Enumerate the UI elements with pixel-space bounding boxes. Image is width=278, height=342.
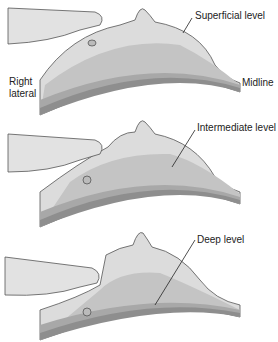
label-intermediate: Intermediate level <box>197 122 276 133</box>
hand <box>5 257 99 295</box>
lump <box>83 176 91 184</box>
panel-deep: Deep level <box>5 233 244 341</box>
label-midline: Midline <box>242 77 274 88</box>
lump <box>88 40 96 46</box>
label-right-lateral-2: lateral <box>9 88 36 99</box>
palpation-levels-diagram: Superficial level Right lateral Midline … <box>0 0 278 342</box>
label-right-lateral-1: Right <box>9 76 33 87</box>
panel-superficial: Superficial level Right lateral Midline <box>8 8 274 115</box>
label-superficial: Superficial level <box>195 10 265 21</box>
lump <box>83 308 91 316</box>
panel-intermediate: Intermediate level <box>8 121 276 227</box>
label-deep: Deep level <box>197 234 244 245</box>
leader-line <box>183 18 192 33</box>
